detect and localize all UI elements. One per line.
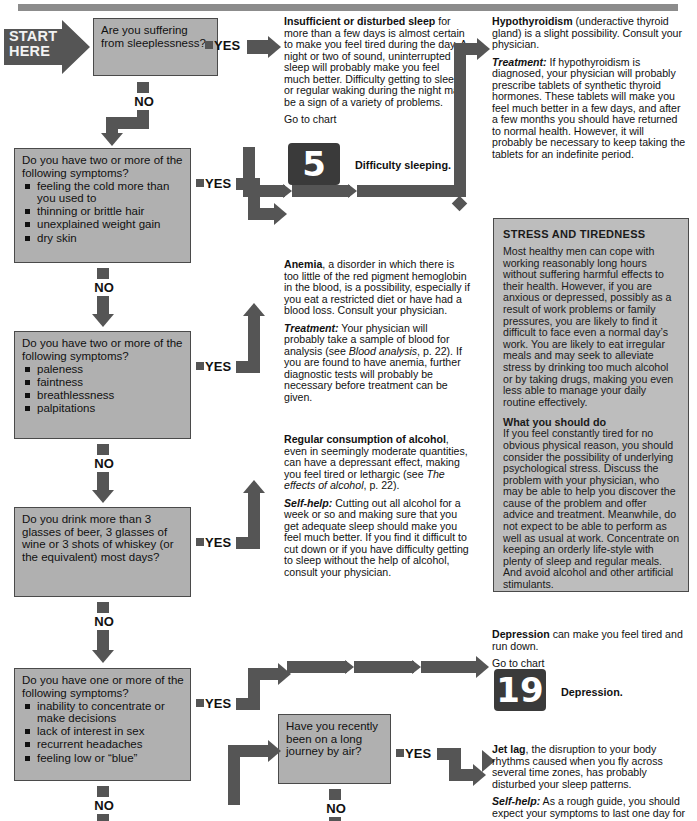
connector-depression-a — [287, 661, 347, 673]
list-item: feeling low or “blue” — [22, 752, 184, 765]
question-box-hypothyroid-symptoms[interactable]: Do you have two or more of the following… — [14, 148, 191, 263]
connector-sleep-to-right-e — [454, 55, 466, 197]
answer-block-hypothyroidism: Hypothyroidism (underactive thyroid glan… — [492, 16, 686, 160]
question-box-depression-symptoms[interactable]: Do you have one or more of the following… — [14, 668, 191, 781]
chart-badge-5[interactable]: 5 — [288, 143, 340, 185]
answer-lead-bold: Insufficient or disturbed sleep — [284, 15, 435, 27]
arrow-head-q3-no — [92, 490, 114, 503]
arrow-head-depression-c — [476, 656, 489, 678]
answer-lead-bold: Regular consumption of alcohol — [284, 433, 446, 445]
answer-selfhelp: Self-help: Cutting out all alcohol for a… — [284, 498, 474, 579]
connector-q4-no-stub — [97, 602, 109, 613]
arrow-head-depression-b — [412, 660, 421, 674]
no-label-q5: NO — [84, 798, 124, 813]
connector-q3-no-stub — [97, 444, 109, 455]
selfhelp-label: Self-help: — [492, 795, 540, 807]
answer-treatment: Treatment: If hypothyroidism is diagnose… — [492, 57, 686, 161]
answer-lead-bold: Anemia — [284, 258, 322, 270]
yes-label-q4: YES — [196, 535, 231, 550]
question-text: Are you suffering from sleeplessness? — [101, 24, 211, 49]
question-box-air-journey[interactable]: Have you recently been on a long journey… — [278, 714, 391, 784]
treatment-text: If hypothyroidism is diagnosed, your phy… — [492, 56, 685, 160]
arrow-head-q2-no — [92, 314, 114, 327]
no-label-q2: NO — [84, 280, 124, 295]
yes-bullet-icon — [196, 362, 204, 370]
question-text: Do you have one or more of the following… — [22, 674, 184, 699]
start-here-arrow: START HERE — [4, 20, 90, 74]
connector-q1-yes — [247, 40, 269, 54]
list-item: unexplained weight gain — [22, 218, 184, 231]
no-label-q4: NO — [84, 614, 124, 629]
yes-bullet-icon — [396, 749, 404, 757]
arrow-head-sleep-right — [477, 38, 490, 60]
yes-bullet-icon — [205, 41, 213, 49]
arrow-head-sleep-a — [283, 184, 292, 198]
answer-paragraph: Jet lag, the disruption to your body rhy… — [492, 744, 688, 790]
connector-q5-no-v — [97, 814, 109, 821]
list-item: thinning or brittle hair — [22, 205, 184, 218]
selfhelp-text: Cutting out all alcohol for a week or so… — [284, 497, 469, 578]
question-text: Do you drink more than 3 glasses of beer… — [22, 513, 184, 563]
symptom-list: paleness faintness breathlessness palpit… — [22, 363, 184, 415]
answer-block-alcohol: Regular consumption of alcohol, even in … — [284, 434, 474, 578]
question-box-anemia-symptoms[interactable]: Do you have two or more of the following… — [14, 331, 191, 439]
answer-treatment: Treatment: Your physician will probably … — [284, 323, 470, 404]
go-to-chart-label: Go to chart — [284, 114, 468, 126]
answer-paragraph: Hypothyroidism (underactive thyroid glan… — [492, 16, 686, 51]
answer-block-sleep: Insufficient or disturbed sleep for more… — [284, 16, 468, 126]
yes-bullet-icon — [196, 179, 204, 187]
connector-q4-yes-v — [248, 492, 260, 549]
connector-q6-no-stub — [329, 789, 341, 800]
yes-label-q6: YES — [396, 746, 431, 761]
list-item: palpitations — [22, 402, 184, 415]
list-item: dry skin — [22, 232, 184, 245]
answer-block-anemia: Anemia, a disorder in which there is too… — [284, 259, 470, 403]
answer-selfhelp: Self-help: As a rough guide, you should … — [492, 796, 688, 819]
connector-q6-no-v — [329, 817, 341, 821]
connector-sleep-to-right-b — [243, 185, 285, 197]
answer-lead-rest: for more than a few days is almost certa… — [284, 15, 466, 108]
list-item: paleness — [22, 363, 184, 376]
answer-block-depression: Depression can make you feel tired and r… — [492, 629, 688, 670]
connector-q2-no-stub — [97, 268, 109, 279]
list-item: feeling the cold more than you used to — [22, 180, 184, 205]
question-box-sleeplessness[interactable]: Are you suffering from sleeplessness? — [93, 18, 218, 76]
arrow-head-q3-yes — [243, 303, 265, 316]
arrow-head-depression-a — [345, 660, 354, 674]
connector-terminal-diamond — [452, 196, 468, 212]
start-here-line1: START — [9, 29, 90, 44]
answer-block-jetlag: Jet lag, the disruption to your body rhy… — [492, 744, 688, 819]
question-box-alcohol[interactable]: Do you drink more than 3 glasses of beer… — [14, 507, 191, 597]
arrow-head-q2-yes — [274, 203, 287, 225]
arrow-head-sleep-b — [348, 184, 357, 198]
symptom-list: inability to concentrate or make decisio… — [22, 700, 184, 764]
arrow-head-q1-no — [101, 133, 123, 146]
connector-depression-c — [421, 661, 478, 673]
symptom-list: feeling the cold more than you used to t… — [22, 180, 184, 244]
panel-heading: STRESS AND TIREDNESS — [503, 228, 680, 240]
arrow-head-into-q6 — [268, 740, 281, 762]
connector-q2-yes-h2 — [248, 208, 276, 220]
page-top-rule — [18, 4, 678, 11]
answer-lead-bold: Depression — [492, 628, 550, 640]
connector-q2-no-v — [97, 296, 109, 316]
connector-into-q6-h — [228, 745, 270, 757]
answer-lead-rest-b: , p. 22). — [364, 479, 400, 491]
list-item: recurrent headaches — [22, 738, 184, 751]
panel-paragraph-2: If you feel constantly tired for no obvi… — [503, 428, 680, 590]
treatment-label: Treatment: — [284, 322, 339, 334]
answer-paragraph: Regular consumption of alcohol, even in … — [284, 434, 474, 492]
treatment-label: Treatment: — [492, 56, 547, 68]
panel-paragraph-1: Most healthy men can cope with working r… — [503, 246, 680, 408]
selfhelp-label: Self-help: — [284, 497, 332, 509]
question-text: Do you have two or more of the following… — [22, 337, 184, 362]
chart-badge-19[interactable]: 19 — [494, 669, 546, 711]
start-here-line2: HERE — [9, 44, 90, 59]
connector-q1-no-stub — [137, 82, 149, 93]
chart-badge-number: 19 — [496, 670, 543, 710]
yes-bullet-icon — [196, 538, 204, 546]
treatment-reference: Blood analysis — [349, 345, 417, 357]
connector-q3-no-v — [97, 472, 109, 492]
yes-label-q2: YES — [196, 176, 231, 191]
no-label-q6: NO — [316, 801, 356, 816]
